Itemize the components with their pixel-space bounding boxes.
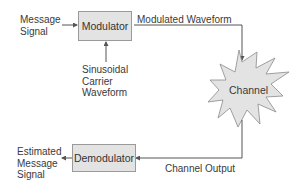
channel-label: Channel: [229, 85, 268, 97]
carrier-label: Sinusoidal Carrier Waveform: [82, 64, 128, 99]
arrow-modulator-to-channel: [134, 25, 242, 60]
modulator-label: Modulator: [82, 20, 129, 32]
modulator-block: Modulator: [78, 11, 132, 41]
arrow-channel-to-demodulator: [136, 120, 242, 158]
modulated-waveform-label: Modulated Waveform: [137, 14, 232, 26]
estimated-message-label: Estimated Message Signal: [17, 146, 61, 181]
demodulator-label: Demodulator: [74, 152, 134, 164]
message-signal-label: Message Signal: [20, 14, 61, 37]
channel-output-label: Channel Output: [165, 163, 235, 175]
demodulator-block: Demodulator: [72, 144, 136, 172]
